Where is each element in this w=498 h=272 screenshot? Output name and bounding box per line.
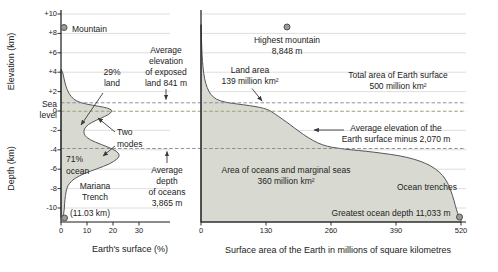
highest-mountain-marker-dot <box>284 24 290 30</box>
ocean-trenches-label: Ocean trenches <box>397 182 457 193</box>
land-percent-label: 29% land <box>103 67 120 89</box>
avg-elev-line1: Average <box>145 45 187 56</box>
mariana-trench-marker-dot <box>62 215 68 221</box>
y-tick: +4 <box>37 67 57 76</box>
x-tick: 20 <box>109 226 117 235</box>
two-modes-label: Two modes <box>117 126 143 150</box>
x-tick: 10 <box>83 226 91 235</box>
total-area-line2: 500 million km² <box>348 81 448 92</box>
hypsographic-figure: Elevation (km) Depth (km) Sea level +10 … <box>0 0 498 272</box>
two-modes-line1: Two <box>117 126 143 138</box>
avg-elev-surface-line1: Average elevation of the <box>342 123 451 134</box>
greatest-depth-label: Greatest ocean depth 11,033 m <box>332 208 451 219</box>
avg-depth-line4: 3,865 m <box>149 198 186 209</box>
avg-elev-line4: land 841 m <box>145 78 187 89</box>
land-percent-line1: 29% <box>103 67 120 78</box>
avg-elev-line2: elevation <box>145 56 187 67</box>
ocean-area-label: Area of oceans and marginal seas 360 mil… <box>222 165 351 187</box>
avg-depth-line3: of oceans <box>149 187 186 198</box>
land-area-line1: Land area <box>221 65 278 76</box>
x-tick: 0 <box>59 226 63 235</box>
avg-elevation-surface-label: Average elevation of the Earth surface m… <box>342 123 451 145</box>
x-tick: 30 <box>135 226 143 235</box>
y-tick: -8 <box>37 184 57 193</box>
highest-mountain-label: Highest mountain 8,848 m <box>254 35 320 57</box>
x-tick: 390 <box>390 226 403 235</box>
y-tick: +10 <box>37 9 57 18</box>
right-x-axis-title: Surface area of the Earth in millions of… <box>225 245 451 256</box>
mariana-depth-label: (11.03 km) <box>70 208 110 219</box>
avg-depth-oceans-label: Average depth of oceans 3,865 m <box>149 165 186 209</box>
avg-depth-line1: Average <box>149 165 186 176</box>
highest-mountain-line1: Highest mountain <box>254 35 320 46</box>
ocean-percent-line1: 71% <box>66 154 89 166</box>
y-tick: +8 <box>37 28 57 37</box>
ocean-percent-label: 71% ocean <box>66 154 89 177</box>
ocean-percent-line2: ocean <box>66 166 89 178</box>
avg-depth-line2: depth <box>149 176 186 187</box>
mariana-line2: Trench <box>80 192 111 203</box>
land-area-line2: 139 million km² <box>221 76 278 87</box>
avg-elevation-land-label: Average elevation of exposed land 841 m <box>145 45 187 89</box>
y-tick: +6 <box>37 48 57 57</box>
avg-elev-line3: of exposed <box>145 67 187 78</box>
x-tick: 130 <box>260 226 273 235</box>
two-modes-line2: modes <box>117 138 143 150</box>
left-x-axis-title: Earth's surface (%) <box>92 244 168 255</box>
land-area-arrow <box>252 89 262 102</box>
x-tick: 520 <box>455 226 468 235</box>
ocean-area-line2: 360 million km² <box>222 176 351 187</box>
total-area-label: Total area of Earth surface 500 million … <box>348 70 448 92</box>
land-area-label: Land area 139 million km² <box>221 65 278 87</box>
two-modes-upper-arrow <box>98 118 115 132</box>
y-tick: -2 <box>37 125 57 134</box>
elevation-axis-title: Elevation (km) <box>6 17 17 107</box>
y-tick: -6 <box>37 164 57 173</box>
depth-axis-title: Depth (km) <box>6 124 17 214</box>
x-tick: 0 <box>199 226 203 235</box>
mariana-line1: Mariana <box>80 181 111 192</box>
mountain-label: Mountain <box>72 24 107 35</box>
mountain-marker-dot <box>61 25 67 31</box>
ocean-area-line1: Area of oceans and marginal seas <box>222 165 351 176</box>
mariana-trench-label: Mariana Trench <box>80 181 111 203</box>
y-tick: 0 <box>37 106 57 115</box>
land-percent-line2: land <box>103 78 120 89</box>
y-tick: +2 <box>37 87 57 96</box>
greatest-depth-marker-dot <box>457 214 463 220</box>
avg-elev-surface-line2: Earth surface minus 2,070 m <box>342 134 451 145</box>
y-tick: -4 <box>37 145 57 154</box>
highest-mountain-line2: 8,848 m <box>254 46 320 57</box>
total-area-line1: Total area of Earth surface <box>348 70 448 81</box>
x-tick: 260 <box>325 226 338 235</box>
y-tick: -10 <box>37 203 57 212</box>
